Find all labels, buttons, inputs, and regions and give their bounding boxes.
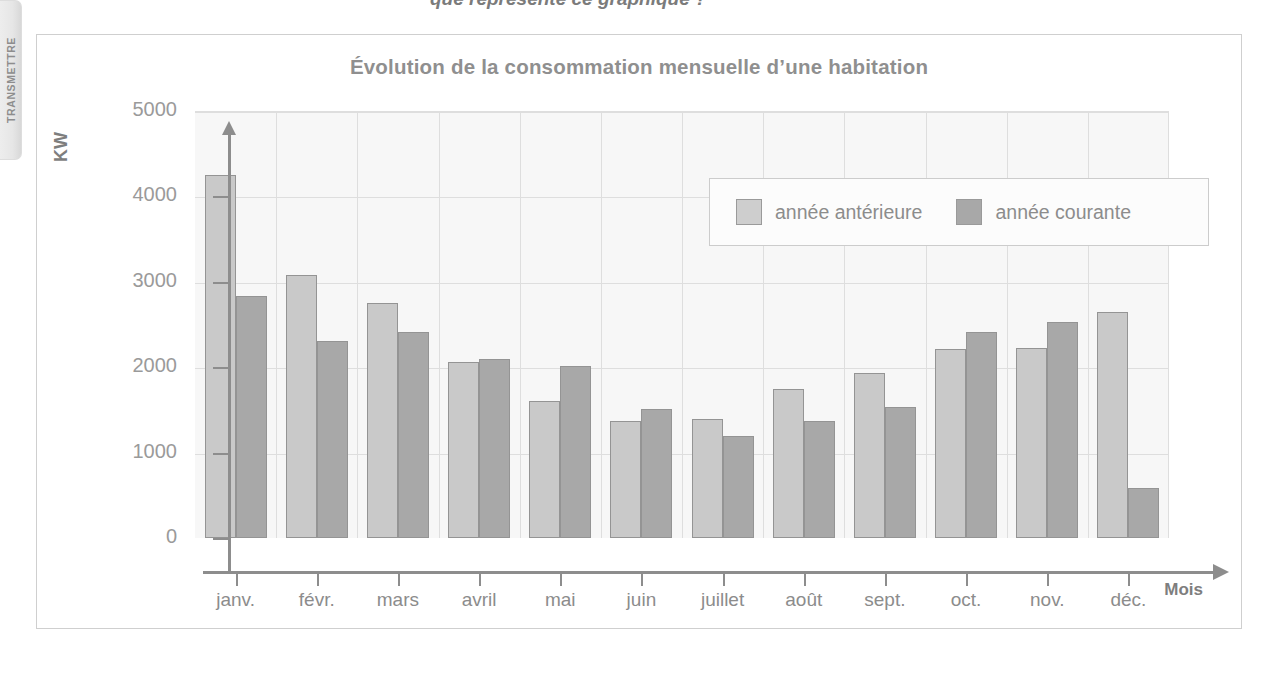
section-tab-label: TRANSMETTRE xyxy=(5,37,17,123)
y-axis-tick-label: 4000 xyxy=(113,183,177,206)
gridline-vertical xyxy=(276,112,277,538)
gridline-vertical xyxy=(1088,112,1089,538)
x-axis-tick xyxy=(641,574,643,586)
x-axis-tick-label: oct. xyxy=(951,589,982,611)
y-axis-tick xyxy=(213,196,229,198)
bar-mai-anterieure[interactable] xyxy=(529,401,560,538)
page-header-text: que représente ce graphique ? xyxy=(430,0,707,10)
x-axis-tick-label: avril xyxy=(462,589,497,611)
chart-legend: année antérieure année courante xyxy=(709,178,1209,246)
gridline-vertical xyxy=(357,112,358,538)
bar-sept-courante[interactable] xyxy=(885,407,916,538)
y-axis-tick xyxy=(213,538,229,540)
bar-févr-courante[interactable] xyxy=(317,341,348,538)
bar-oct-courante[interactable] xyxy=(966,332,997,538)
x-axis-tick-label: nov. xyxy=(1030,589,1065,611)
chart-title: Évolution de la consommation mensuelle d… xyxy=(37,55,1241,79)
bar-mars-anterieure[interactable] xyxy=(367,303,398,538)
legend-item-label: année courante xyxy=(995,201,1131,224)
legend-item-annee-anterieure[interactable]: année antérieure xyxy=(736,199,922,225)
x-axis-tick-label: sept. xyxy=(864,589,905,611)
y-axis-tick xyxy=(213,282,229,284)
x-axis-tick-label: mars xyxy=(377,589,419,611)
bar-mars-courante[interactable] xyxy=(398,332,429,538)
bar-nov-courante[interactable] xyxy=(1047,322,1078,538)
x-axis-tick xyxy=(1128,574,1130,586)
bar-juin-courante[interactable] xyxy=(641,409,672,538)
gridline-vertical xyxy=(926,112,927,538)
y-axis-tick-label: 5000 xyxy=(113,98,177,121)
gridline-vertical xyxy=(1007,112,1008,538)
gridline-vertical xyxy=(763,112,764,538)
legend-item-label: année antérieure xyxy=(775,201,922,224)
x-axis-tick xyxy=(236,574,238,586)
bar-nov-anterieure[interactable] xyxy=(1016,348,1047,538)
gridline-vertical xyxy=(601,112,602,538)
x-axis-label: Mois xyxy=(1164,580,1203,600)
gridline-vertical xyxy=(844,112,845,538)
x-axis-tick xyxy=(317,574,319,586)
bar-déc-courante[interactable] xyxy=(1128,488,1159,538)
x-axis-tick-label: févr. xyxy=(299,589,335,611)
legend-swatch-icon xyxy=(956,199,982,225)
section-tab-transmettre: TRANSMETTRE xyxy=(0,0,22,160)
bar-sept-anterieure[interactable] xyxy=(854,373,885,538)
x-axis-tick xyxy=(479,574,481,586)
x-axis-tick xyxy=(723,574,725,586)
x-axis-tick-label: juin xyxy=(627,589,657,611)
x-axis-line xyxy=(203,571,1215,574)
bar-déc-anterieure[interactable] xyxy=(1097,312,1128,538)
figure-container: Évolution de la consommation mensuelle d… xyxy=(36,34,1242,629)
x-axis-tick-label: juillet xyxy=(701,589,744,611)
bar-févr-anterieure[interactable] xyxy=(286,275,317,538)
bar-mai-courante[interactable] xyxy=(560,366,591,539)
bar-juillet-courante[interactable] xyxy=(723,436,754,538)
page-header-strip: que représente ce graphique ? xyxy=(0,0,1279,14)
bar-août-anterieure[interactable] xyxy=(773,389,804,538)
legend-swatch-icon xyxy=(736,199,762,225)
bar-août-courante[interactable] xyxy=(804,421,835,538)
gridline-vertical xyxy=(682,112,683,538)
y-axis-arrow-icon xyxy=(222,121,236,135)
x-axis-tick-label: août xyxy=(785,589,822,611)
gridline-vertical xyxy=(439,112,440,538)
y-axis-label: KW xyxy=(51,132,72,162)
y-axis-tick xyxy=(213,453,229,455)
y-axis-tick-label: 2000 xyxy=(113,354,177,377)
bar-juillet-anterieure[interactable] xyxy=(692,419,723,538)
y-axis-tick-label: 0 xyxy=(113,525,177,548)
x-axis-tick xyxy=(560,574,562,586)
bar-avril-anterieure[interactable] xyxy=(448,362,479,538)
x-axis-tick xyxy=(804,574,806,586)
x-axis-tick xyxy=(1047,574,1049,586)
x-axis-tick xyxy=(885,574,887,586)
y-axis-tick xyxy=(213,367,229,369)
gridline-vertical xyxy=(520,112,521,538)
x-axis-tick-label: déc. xyxy=(1110,589,1146,611)
x-axis-tick-label: mai xyxy=(545,589,576,611)
legend-item-annee-courante[interactable]: année courante xyxy=(956,199,1131,225)
y-axis-tick-label: 1000 xyxy=(113,440,177,463)
x-axis-arrow-icon xyxy=(1213,564,1229,580)
y-axis-tick-label: 3000 xyxy=(113,269,177,292)
bar-juin-anterieure[interactable] xyxy=(610,421,641,538)
x-axis-tick-label: janv. xyxy=(216,589,255,611)
bar-oct-anterieure[interactable] xyxy=(935,349,966,538)
plot-area xyxy=(195,111,1169,538)
x-axis-tick xyxy=(398,574,400,586)
bar-janv-courante[interactable] xyxy=(236,296,267,538)
bar-avril-courante[interactable] xyxy=(479,359,510,538)
x-axis-tick xyxy=(966,574,968,586)
